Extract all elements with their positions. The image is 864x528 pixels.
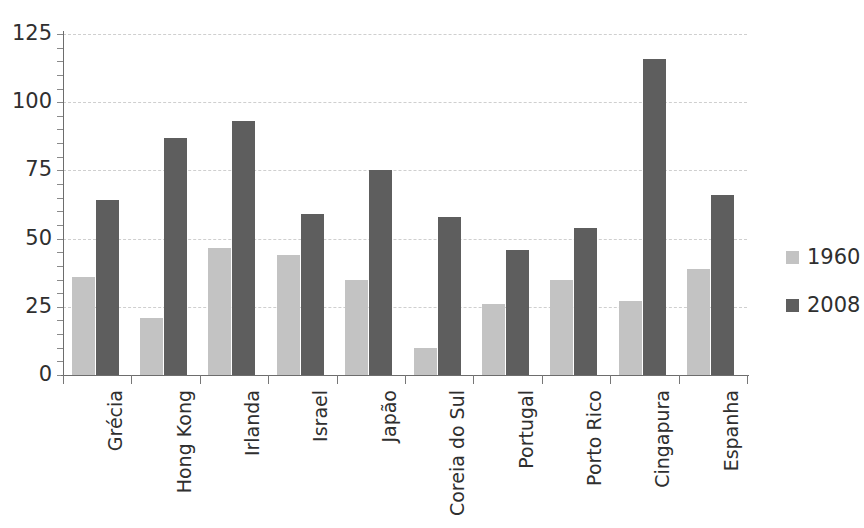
bar-1960[interactable] xyxy=(619,301,642,375)
legend-swatch-icon xyxy=(786,299,799,312)
bar-2008[interactable] xyxy=(369,170,392,375)
bar-2008[interactable] xyxy=(438,217,461,375)
bar-group xyxy=(473,34,541,375)
bar-group xyxy=(63,34,131,375)
bar-group xyxy=(337,34,405,375)
bar-2008[interactable] xyxy=(711,195,734,375)
x-tick xyxy=(747,375,748,384)
bar-2008[interactable] xyxy=(574,228,597,375)
legend-item[interactable]: 2008 xyxy=(786,290,864,320)
bar-1960[interactable] xyxy=(414,348,437,375)
bar-chart: 1251007550250 GréciaHong KongIrlandaIsra… xyxy=(0,0,864,528)
bar-1960[interactable] xyxy=(208,248,231,375)
x-tick xyxy=(542,375,543,384)
x-tick xyxy=(337,375,338,384)
x-tick xyxy=(405,375,406,384)
legend-swatch-icon xyxy=(786,251,799,264)
x-tick-label: Japão xyxy=(380,390,399,443)
plot-area xyxy=(63,34,747,375)
x-tick-label: Hong Kong xyxy=(175,390,194,493)
x-tick xyxy=(200,375,201,384)
legend-label: 1960 xyxy=(807,247,860,268)
bar-group xyxy=(268,34,336,375)
bar-2008[interactable] xyxy=(232,121,255,375)
x-tick xyxy=(268,375,269,384)
y-tick-label: 125 xyxy=(0,23,52,44)
legend-item[interactable]: 1960 xyxy=(786,242,864,272)
bar-2008[interactable] xyxy=(506,250,529,375)
bar-1960[interactable] xyxy=(687,269,710,375)
bar-1960[interactable] xyxy=(277,255,300,375)
y-tick-label: 50 xyxy=(0,228,52,249)
legend: 19602008 xyxy=(786,242,864,338)
bar-2008[interactable] xyxy=(164,138,187,375)
y-tick-label: 75 xyxy=(0,159,52,180)
x-tick xyxy=(131,375,132,384)
x-tick-label: Grécia xyxy=(106,390,125,451)
bar-group xyxy=(200,34,268,375)
y-axis-line xyxy=(63,31,64,378)
x-tick-label: Espanha xyxy=(722,390,741,471)
y-tick-label: 0 xyxy=(0,364,52,385)
bar-group xyxy=(405,34,473,375)
y-axis: 1251007550250 xyxy=(0,0,52,528)
bar-group xyxy=(131,34,199,375)
bar-2008[interactable] xyxy=(301,214,324,375)
bar-1960[interactable] xyxy=(140,318,163,375)
x-tick-label: Cingapura xyxy=(653,390,672,488)
bar-group xyxy=(679,34,747,375)
bar-group xyxy=(610,34,678,375)
bar-1960[interactable] xyxy=(482,304,505,375)
bar-2008[interactable] xyxy=(96,200,119,375)
x-tick xyxy=(679,375,680,384)
bar-1960[interactable] xyxy=(550,280,573,375)
x-tick xyxy=(473,375,474,384)
x-tick xyxy=(610,375,611,384)
x-tick xyxy=(63,375,64,384)
y-tick-label: 25 xyxy=(0,296,52,317)
bar-1960[interactable] xyxy=(72,277,95,375)
x-tick-label: Irlanda xyxy=(243,390,262,456)
legend-label: 2008 xyxy=(807,295,860,316)
x-tick-label: Porto Rico xyxy=(585,390,604,486)
bar-2008[interactable] xyxy=(643,59,666,375)
y-tick-label: 100 xyxy=(0,91,52,112)
x-tick-label: Israel xyxy=(311,390,330,442)
x-tick-label: Coreia do Sul xyxy=(448,390,467,516)
bar-1960[interactable] xyxy=(345,280,368,375)
x-tick-label: Portugal xyxy=(517,390,536,469)
bar-group xyxy=(542,34,610,375)
